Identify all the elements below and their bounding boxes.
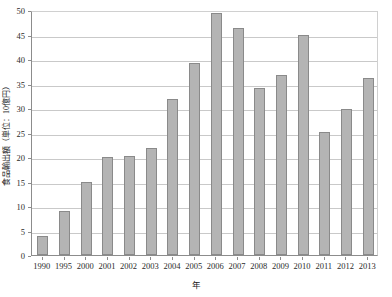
- bar-1990: [37, 236, 48, 255]
- x-tick-mark: [85, 257, 86, 260]
- x-tick-label-2005: 2005: [185, 261, 202, 271]
- x-tick-label-1990: 1990: [33, 261, 50, 271]
- bar-2005: [189, 63, 200, 255]
- y-tick-label: 10: [0, 202, 25, 212]
- bar-2001: [102, 157, 113, 255]
- y-tick-label: 0: [0, 251, 25, 261]
- bar-2013: [363, 78, 374, 255]
- bar-2011: [319, 132, 330, 255]
- bar-2012: [341, 109, 352, 255]
- x-tick-label-2006: 2006: [207, 261, 224, 271]
- y-tick-mark: [28, 36, 31, 37]
- x-tick-mark: [324, 257, 325, 260]
- y-tick-mark: [28, 85, 31, 86]
- y-tick-label: 20: [0, 153, 25, 163]
- x-tick-mark: [302, 257, 303, 260]
- x-tick-mark: [42, 257, 43, 260]
- bar-2000: [81, 182, 92, 256]
- y-tick-label: 35: [0, 80, 25, 90]
- bar-2003: [146, 148, 157, 255]
- x-tick-label-2002: 2002: [120, 261, 137, 271]
- y-tick-mark: [28, 134, 31, 135]
- x-tick-mark: [64, 257, 65, 260]
- x-tick-label-2009: 2009: [272, 261, 289, 271]
- bar-2007: [233, 28, 244, 255]
- bar-2006: [211, 13, 222, 255]
- bars-container: [32, 12, 377, 255]
- x-tick-mark: [237, 257, 238, 260]
- x-tick-label-1995: 1995: [55, 261, 72, 271]
- y-tick-mark: [28, 183, 31, 184]
- y-tick-mark: [28, 60, 31, 61]
- y-tick-label: 40: [0, 55, 25, 65]
- x-axis-title: 年: [0, 278, 392, 290]
- y-tick-label: 25: [0, 129, 25, 139]
- y-tick-label: 5: [0, 227, 25, 237]
- x-tick-label-2011: 2011: [315, 261, 332, 271]
- x-tick-mark: [150, 257, 151, 260]
- x-tick-label-2013: 2013: [359, 261, 376, 271]
- y-tick-label: 30: [0, 104, 25, 114]
- y-tick-mark: [28, 11, 31, 12]
- y-tick-mark: [28, 109, 31, 110]
- y-tick-mark: [28, 158, 31, 159]
- x-tick-label-2008: 2008: [250, 261, 267, 271]
- x-tick-mark: [172, 257, 173, 260]
- bar-2010: [298, 35, 309, 256]
- y-tick-label: 15: [0, 178, 25, 188]
- bar-2009: [276, 75, 287, 255]
- bar-chart: 食品輸出額（単位：10億円） 05101520253035404550 1990…: [0, 0, 392, 297]
- x-tick-label-2010: 2010: [294, 261, 311, 271]
- y-tick-mark: [28, 207, 31, 208]
- y-tick-label: 45: [0, 31, 25, 41]
- x-tick-label-2000: 2000: [77, 261, 94, 271]
- y-tick-label: 50: [0, 6, 25, 16]
- plot-area: [31, 11, 378, 256]
- bar-2008: [254, 88, 265, 255]
- x-tick-label-2012: 2012: [337, 261, 354, 271]
- x-tick-label-2001: 2001: [98, 261, 115, 271]
- x-tick-mark: [280, 257, 281, 260]
- x-tick-mark: [345, 257, 346, 260]
- bar-1995: [59, 211, 70, 255]
- x-tick-label-2003: 2003: [142, 261, 159, 271]
- bar-2002: [124, 156, 135, 255]
- x-tick-mark: [194, 257, 195, 260]
- x-tick-mark: [107, 257, 108, 260]
- x-tick-label-2007: 2007: [229, 261, 246, 271]
- x-tick-mark: [367, 257, 368, 260]
- x-tick-mark: [129, 257, 130, 260]
- x-tick-mark: [259, 257, 260, 260]
- x-tick-mark: [215, 257, 216, 260]
- y-tick-mark: [28, 232, 31, 233]
- x-tick-label-2004: 2004: [163, 261, 180, 271]
- bar-2004: [167, 99, 178, 255]
- x-axis-labels: 1990199520002001200220032004200520062007…: [31, 261, 378, 275]
